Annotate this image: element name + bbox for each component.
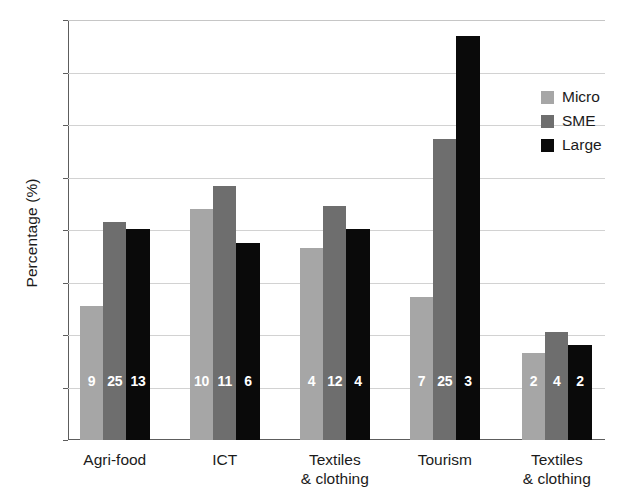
- bar-value-label: 25: [103, 374, 126, 388]
- bar-value-label: 2: [568, 374, 591, 388]
- bar-micro-5: 2: [522, 353, 545, 440]
- legend-swatch-icon: [541, 91, 554, 104]
- bar-sme-5: 4: [545, 332, 568, 440]
- bar-sme-1: 25: [103, 222, 126, 440]
- y-axis-tick-mark: [63, 20, 68, 21]
- y-axis-tick-mark: [63, 73, 68, 74]
- bar-micro-2: 10: [190, 209, 213, 440]
- x-axis-category-label: Textiles & clothing: [487, 450, 619, 488]
- legend-label: Large: [562, 136, 602, 154]
- legend-label: SME: [562, 112, 596, 130]
- y-axis-tick-mark: [63, 388, 68, 389]
- bar-micro-4: 7: [410, 297, 433, 440]
- gridline: [68, 178, 605, 179]
- bar-value-label: 3: [456, 374, 479, 388]
- bar-value-label: 25: [433, 374, 456, 388]
- bar-value-label: 4: [300, 374, 323, 388]
- y-axis-tick-mark: [63, 335, 68, 336]
- bar-large-1: 13: [126, 229, 149, 440]
- legend-item-large: Large: [541, 133, 619, 157]
- bar-large-3: 4: [346, 229, 369, 440]
- bar-value-label: 9: [80, 374, 103, 388]
- y-axis-tick-mark: [63, 178, 68, 179]
- bar-value-label: 11: [213, 374, 236, 388]
- plot-area: 925131011641247253242: [68, 20, 605, 440]
- bar-value-label: 4: [545, 374, 568, 388]
- bar-value-label: 4: [346, 374, 369, 388]
- bar-value-label: 12: [323, 374, 346, 388]
- bar-value-label: 2: [522, 374, 545, 388]
- bar-sme-3: 12: [323, 206, 346, 440]
- bar-sme-2: 11: [213, 186, 236, 440]
- legend-item-micro: Micro: [541, 85, 619, 109]
- chart-legend: MicroSMELarge: [541, 85, 619, 157]
- bar-value-label: 10: [190, 374, 213, 388]
- bar-chart: Percentage (%) 925131011641247253242 Mic…: [0, 0, 619, 499]
- legend-swatch-icon: [541, 115, 554, 128]
- bar-value-label: 7: [410, 374, 433, 388]
- bar-micro-1: 9: [80, 306, 103, 440]
- y-axis-tick-mark: [63, 230, 68, 231]
- legend-item-sme: SME: [541, 109, 619, 133]
- bar-large-5: 2: [568, 345, 591, 440]
- y-axis-tick-mark: [63, 440, 68, 441]
- y-axis-tick-mark: [63, 283, 68, 284]
- gridline: [68, 73, 605, 74]
- legend-swatch-icon: [541, 139, 554, 152]
- gridline: [68, 20, 605, 21]
- bar-value-label: 13: [126, 374, 149, 388]
- bar-large-4: 3: [456, 36, 479, 440]
- legend-label: Micro: [562, 88, 600, 106]
- bar-sme-4: 25: [433, 139, 456, 440]
- bar-large-2: 6: [236, 243, 259, 440]
- gridline: [68, 125, 605, 126]
- bar-micro-3: 4: [300, 248, 323, 440]
- y-axis-tick-mark: [63, 125, 68, 126]
- bar-value-label: 6: [236, 374, 259, 388]
- y-axis-label: Percentage (%): [23, 113, 41, 353]
